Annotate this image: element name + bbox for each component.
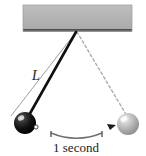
pendulum-canvas: L 1 second: [0, 0, 146, 156]
ceiling-bar-body: [23, 5, 132, 31]
bob-direction-marker-left: [34, 125, 38, 129]
pendulum-rod-right-extreme: [77, 32, 127, 116]
length-label: L: [31, 68, 40, 83]
ceiling-support-bar: [23, 5, 132, 32]
pendulum-rod-left-extreme: [11, 32, 76, 116]
period-caption: 1 second: [53, 140, 99, 155]
marker-right-wedge: [107, 124, 116, 130]
pendulum-figure: L 1 second: [0, 0, 146, 156]
pendulum-bob-light-sphere: [117, 113, 139, 135]
pendulum-bob-dark-sphere: [14, 112, 36, 134]
marker-left-dot: [34, 125, 38, 129]
bob-direction-marker-right: [107, 124, 116, 130]
pendulum-bob-light: [117, 113, 139, 135]
pendulum-bob-dark: [14, 112, 36, 134]
period-span-arc: [51, 131, 102, 138]
period-arc-curve: [51, 133, 102, 138]
